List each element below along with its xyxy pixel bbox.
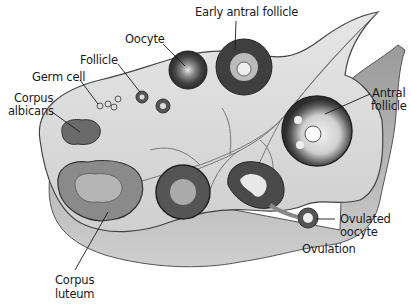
label-corpus-luteum-line2: luteum <box>55 288 94 301</box>
label-early-antral-follicle: Early antral follicle <box>195 6 298 19</box>
label-germ-cell: Germ cell <box>32 71 85 84</box>
label-corpus-luteum-line1: Corpus <box>55 274 94 287</box>
ovary-illustration <box>0 0 411 308</box>
label-ovulated-oocyte-line2: oocyte <box>340 226 378 239</box>
label-corpus-albicans-line2: albicans <box>8 105 54 118</box>
label-ovulation: Ovulation <box>302 243 356 256</box>
label-antral-follicle-line2: follicle <box>371 100 407 113</box>
label-follicle: Follicle <box>80 54 118 67</box>
secondary-follicle <box>169 51 207 89</box>
label-oocyte: Oocyte <box>125 33 165 46</box>
ovary-diagram: Early antral follicle Oocyte Follicle Ge… <box>0 0 411 308</box>
